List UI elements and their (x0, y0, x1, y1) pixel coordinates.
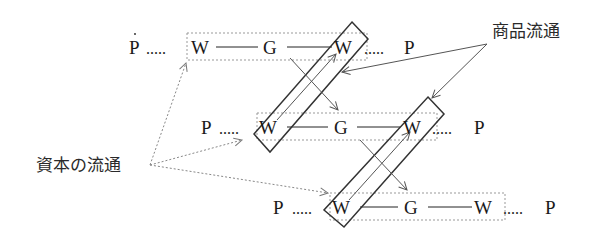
row1: P ..... W G W ..... P (129, 33, 415, 58)
row1-dots-left: ..... (146, 40, 166, 57)
row2-w1: W (259, 117, 277, 138)
row1-p-dot (134, 33, 136, 35)
row1-p-end: P (404, 37, 415, 58)
row2-dots-right: ..... (432, 120, 452, 137)
commodity-circulation-label: 商品流通 (492, 21, 560, 41)
row1-w1: W (191, 37, 209, 58)
capital-circulation-label: 資本の流通 (36, 155, 121, 175)
row3-p-end: P (545, 197, 556, 218)
row2-w2: W (403, 117, 421, 138)
row2-p-start: P (201, 117, 212, 138)
row1-w2: W (334, 37, 352, 58)
circulation-diagram: P ..... W G W ..... P P ..... W G W ....… (0, 0, 608, 247)
row2-dots-left: ..... (219, 120, 239, 137)
row3-dots-left: ..... (292, 200, 312, 217)
row1-dots-right: ..... (364, 40, 384, 57)
row1-p-start: P (129, 37, 140, 58)
row2-p-end: P (474, 117, 485, 138)
row3-w1: W (332, 197, 350, 218)
row3-p-start: P (273, 197, 284, 218)
row2-g: G (334, 117, 348, 138)
row1-g: G (263, 37, 277, 58)
row3: P ..... W G W ..... P (273, 197, 556, 218)
capital-label-arrows (150, 63, 328, 193)
row3-dots-right: ..... (503, 200, 523, 217)
row3-w2: W (474, 197, 492, 218)
row3-g: G (404, 197, 418, 218)
row2: P ..... W G W ..... P (201, 117, 485, 138)
